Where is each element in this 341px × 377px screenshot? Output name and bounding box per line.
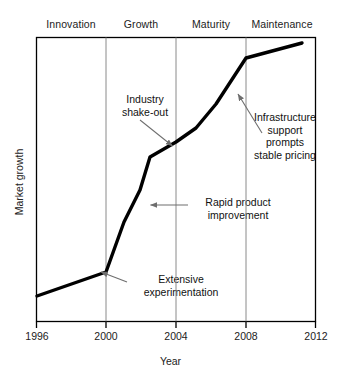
market-growth-lifecycle-chart: Innovation Growth Maturity Maintenance M… [0, 0, 341, 377]
chart-vector-layer [0, 0, 341, 377]
market-growth-curve [37, 43, 302, 296]
leader-infrastructure-support [238, 94, 262, 133]
leader-extensive-experimentation [101, 272, 127, 282]
leader-industry-shakeout [140, 120, 173, 146]
